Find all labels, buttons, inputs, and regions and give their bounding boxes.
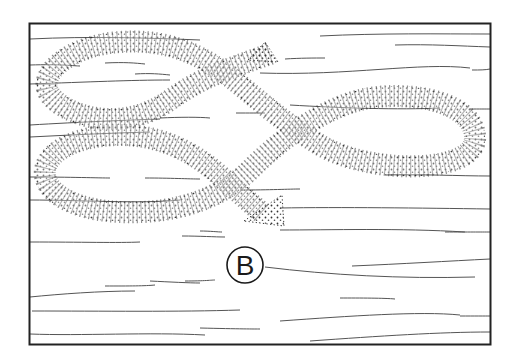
wood-panel-diagram: B <box>0 0 521 357</box>
figure-label: B <box>236 250 255 281</box>
illustration-canvas: B <box>0 0 521 357</box>
circled-label-badge: B <box>227 247 263 283</box>
panel-frame <box>30 24 491 345</box>
wood-grain-lines <box>30 34 490 341</box>
